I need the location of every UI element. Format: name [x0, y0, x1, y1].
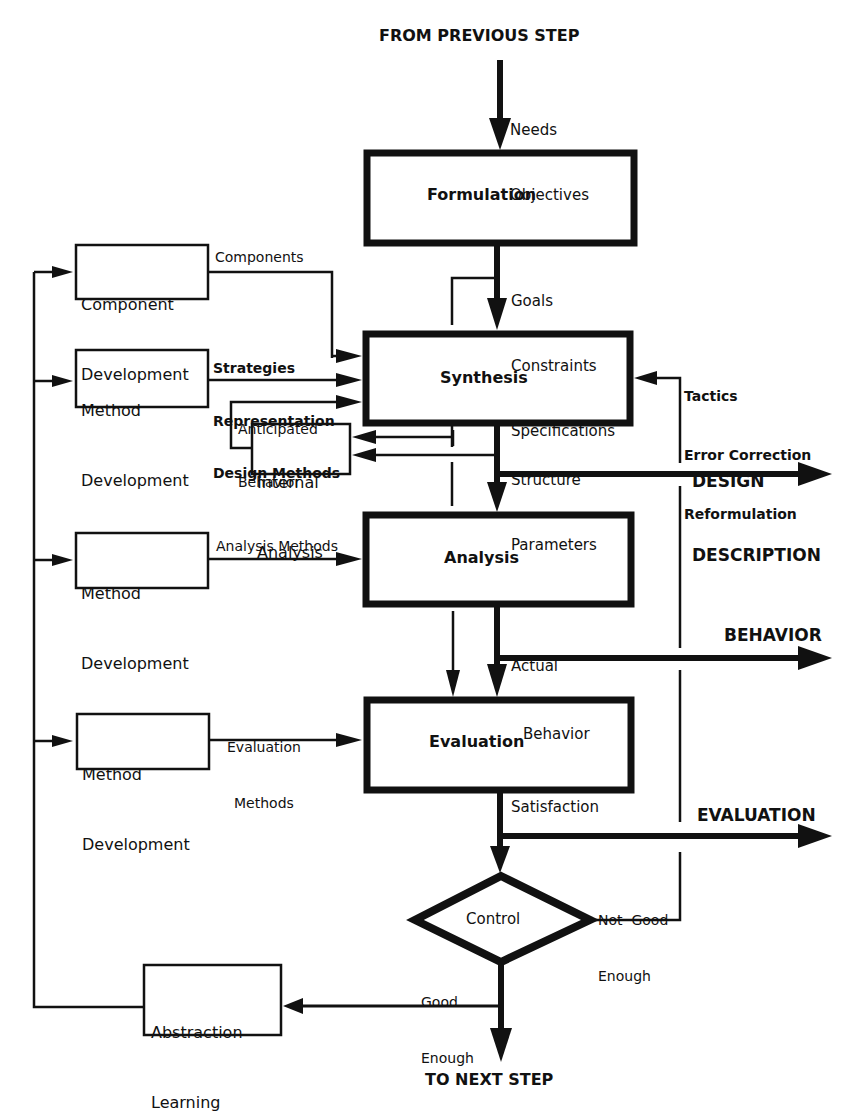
behavior-output-label: BEHAVIOR [724, 625, 822, 645]
structure-parameters-label: Structure Parameters [511, 426, 597, 578]
line-2: Enough [598, 967, 668, 986]
entry-arrow [489, 60, 511, 150]
line-1: Good [421, 993, 474, 1012]
line-2: Development [82, 833, 190, 856]
anticipated-behavior-label: Anticipated Behavior [238, 386, 318, 509]
method-development-synthesis-label: Method Development [81, 353, 189, 515]
line-1: Goals [511, 291, 615, 313]
line-1: Abstraction [151, 1021, 243, 1044]
line-1: Method [81, 399, 189, 422]
exit-arrow [490, 965, 512, 1062]
design-description-output-label: DESIGN DESCRIPTION [692, 420, 821, 592]
entry-label: FROM PREVIOUS STEP [379, 26, 579, 45]
line-1: Strategies [213, 360, 340, 378]
needs-objectives-label: Needs Objectives [510, 76, 589, 228]
line-2: Learning [151, 1091, 243, 1114]
line-2: Parameters [511, 535, 597, 557]
components-label: Components [215, 249, 304, 266]
analysis-methods-label: Analysis Methods [216, 538, 338, 555]
line-2: Enough [421, 1049, 474, 1068]
line-1: Needs [510, 120, 589, 142]
goals-arrow [452, 246, 507, 330]
line-2: Methods [227, 794, 301, 813]
line-2: Objectives [510, 185, 589, 207]
not-good-enough-label: Not Good Enough [598, 873, 668, 1005]
satisfaction-label: Satisfaction [511, 798, 599, 816]
line-1: Component [81, 293, 189, 316]
abstraction-learning-label: Abstraction Learning [151, 975, 243, 1115]
line-2: Development [81, 469, 189, 492]
actual-behavior-arrow [446, 607, 507, 697]
line-2: Behavior [238, 474, 318, 492]
method-development-analysis-label: Method Development [81, 536, 189, 698]
line-2: Behavior [511, 723, 590, 746]
line-1: Evaluation [227, 738, 301, 757]
analysis-label: Analysis [444, 548, 519, 567]
line-2: Development [81, 652, 189, 675]
line-1: Method [82, 763, 190, 786]
line-1: Method [81, 582, 189, 605]
synthesis-to-internal-analysis-arrows [352, 430, 497, 462]
line-1: Tactics [684, 387, 811, 407]
line-1: Actual [511, 655, 590, 678]
line-1: DESIGN [692, 469, 821, 494]
line-1: Structure [511, 470, 597, 492]
line-1: Not Good [598, 911, 668, 930]
evaluation-output-label: EVALUATION [697, 805, 816, 825]
good-enough-label: Good Enough [421, 955, 474, 1087]
line-2: DESCRIPTION [692, 543, 821, 568]
method-development-evaluation-label: Method Development [82, 717, 190, 879]
actual-behavior-label: Actual Behavior [511, 610, 590, 768]
evaluation-output-arrow [500, 824, 832, 848]
structure-arrow [452, 426, 507, 512]
control-label: Control [466, 910, 520, 928]
line-1: Anticipated [238, 421, 318, 439]
line-2: Constraints [511, 356, 615, 378]
evaluation-methods-label: Evaluation Methods [227, 700, 301, 832]
